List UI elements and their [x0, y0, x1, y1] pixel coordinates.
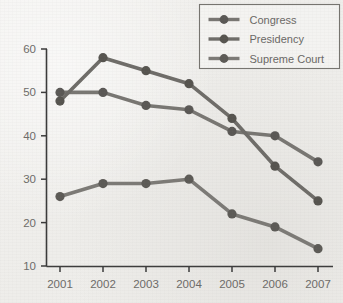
data-point	[141, 66, 150, 75]
legend-item-presidency[interactable]: Presidency	[209, 33, 305, 45]
data-point	[141, 101, 150, 110]
data-point	[141, 179, 150, 188]
series-supreme-court	[55, 175, 322, 254]
data-point	[98, 53, 107, 62]
y-tick-label: 30	[23, 173, 36, 185]
series-line	[60, 179, 318, 248]
data-point	[184, 105, 193, 114]
x-tick-label: 2005	[219, 278, 245, 290]
x-tick-label: 2006	[262, 278, 288, 290]
legend-swatch-marker	[220, 54, 229, 63]
chart-container: 102030405060 200120022003200420052006200…	[0, 0, 343, 303]
data-point	[227, 209, 236, 218]
data-point	[313, 244, 322, 253]
legend-label: Supreme Court	[250, 53, 325, 65]
data-point	[313, 196, 322, 205]
y-axis-ticks: 102030405060	[23, 43, 47, 272]
series-line	[60, 92, 318, 161]
x-tick-label: 2003	[133, 278, 159, 290]
data-point	[270, 222, 279, 231]
x-tick-label: 2004	[176, 278, 202, 290]
legend-swatch-marker	[220, 15, 229, 24]
data-point	[184, 175, 193, 184]
line-chart: 102030405060 200120022003200420052006200…	[0, 0, 343, 303]
legend-label: Presidency	[250, 33, 305, 45]
chart-legend: CongressPresidencySupreme Court	[200, 5, 340, 69]
y-tick-label: 40	[23, 130, 36, 142]
y-tick-label: 60	[23, 43, 36, 55]
data-point	[270, 131, 279, 140]
legend-swatch-marker	[220, 35, 229, 44]
y-tick-label: 50	[23, 86, 36, 98]
data-point	[55, 96, 64, 105]
x-tick-label: 2002	[90, 278, 116, 290]
data-point	[270, 162, 279, 171]
data-series-group	[55, 53, 322, 253]
series-congress	[55, 88, 322, 167]
data-point	[227, 127, 236, 136]
x-axis-ticks: 2001200220032004200520062007	[47, 266, 331, 290]
data-point	[184, 79, 193, 88]
x-tick-label: 2001	[47, 278, 73, 290]
x-tick-label: 2007	[305, 278, 331, 290]
data-point	[98, 179, 107, 188]
data-point	[227, 114, 236, 123]
data-point	[55, 192, 64, 201]
data-point	[313, 157, 322, 166]
y-tick-label: 20	[23, 217, 36, 229]
data-point	[98, 88, 107, 97]
legend-label: Congress	[250, 14, 298, 26]
y-tick-label: 10	[23, 260, 36, 272]
